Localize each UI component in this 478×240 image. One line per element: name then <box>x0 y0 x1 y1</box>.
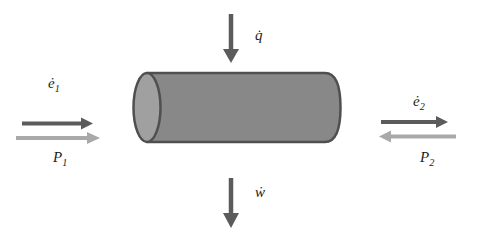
pipe-cylinder <box>134 73 341 142</box>
energy-in-arrow <box>22 118 93 130</box>
pressure-in-label: P1 <box>53 149 67 168</box>
pressure-in-arrow-head <box>87 132 100 144</box>
work-label: ẇ <box>255 184 265 201</box>
pipe-left-cap <box>134 73 161 142</box>
diagram-shapes <box>0 0 478 240</box>
work-arrow <box>223 178 239 228</box>
energy-in-label: ė1 <box>48 75 60 94</box>
pressure-out-arrow <box>379 131 456 143</box>
energy-out-arrow <box>381 116 448 128</box>
energy-out-arrow-head <box>436 116 448 128</box>
pressure-out-subscript: 2 <box>429 157 434 168</box>
pipe-cap-fill-group <box>134 73 161 142</box>
pressure-out-label: P2 <box>420 149 434 168</box>
heat-arrow <box>223 14 239 63</box>
heat-symbol: q̇ <box>255 27 263 43</box>
energy-in-arrow-head <box>81 118 93 130</box>
pressure-in-arrow <box>16 132 100 144</box>
heat-label: q̇ <box>255 27 263 44</box>
energy-in-subscript: 1 <box>55 83 60 94</box>
pressure-out-arrow-head <box>379 131 391 143</box>
pressure-out-symbol: P <box>420 149 429 165</box>
energy-out-subscript: 2 <box>420 101 425 112</box>
pressure-in-subscript: 1 <box>62 157 67 168</box>
energy-out-label: ė2 <box>413 93 425 112</box>
work-symbol: ẇ <box>255 184 265 200</box>
pipe-body <box>147 73 341 142</box>
energy-in-symbol: ė <box>48 75 55 91</box>
heat-arrow-head <box>223 49 239 63</box>
pipe-body-fill-group <box>147 73 341 142</box>
work-arrow-head <box>223 213 239 228</box>
energy-out-symbol: ė <box>413 93 420 109</box>
pressure-in-symbol: P <box>53 149 62 165</box>
energy-balance-diagram: q̇ ė1 P1 ė2 P2 ẇ <box>0 0 478 240</box>
